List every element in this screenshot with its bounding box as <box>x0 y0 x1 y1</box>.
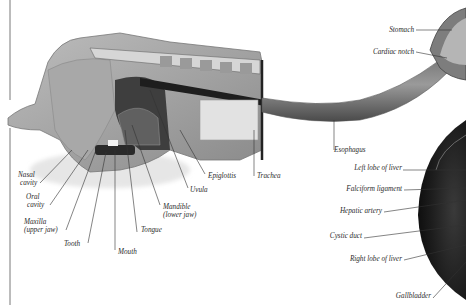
liver-shape <box>418 120 466 300</box>
label-nasal-cavity: Nasal cavity <box>18 171 37 187</box>
label-esophagus: Esophagus <box>334 146 366 154</box>
label-epiglottis: Epiglottis <box>208 172 236 180</box>
label-tooth: Tooth <box>64 240 80 248</box>
label-line-1: Maxilla <box>24 218 58 226</box>
label-line-2: cavity <box>26 201 44 209</box>
label-cardiac-notch: Cardiac notch <box>373 48 414 56</box>
label-falciform-ligament: Falciform ligament <box>346 185 402 193</box>
label-left-lobe-of-liver: Left lobe of liver <box>354 164 402 172</box>
label-tongue: Tongue <box>141 226 162 234</box>
label-stomach: Stomach <box>389 26 414 34</box>
anatomy-diagram: Nasal cavity Oral cavity Maxilla (upper … <box>0 0 466 305</box>
label-oral-cavity: Oral cavity <box>26 193 44 209</box>
label-uvula: Uvula <box>190 186 208 194</box>
label-line-1: Oral <box>26 193 44 201</box>
label-cystic-duct: Cystic duct <box>330 232 362 240</box>
label-line-1: Mandible <box>163 203 196 211</box>
label-mouth: Mouth <box>118 248 137 256</box>
label-line-2: cavity <box>18 179 37 187</box>
label-maxilla: Maxilla (upper jaw) <box>24 218 58 234</box>
esophagus-tube <box>262 60 448 121</box>
label-line-2: (upper jaw) <box>24 226 58 234</box>
label-mandible: Mandible (lower jaw) <box>163 203 196 219</box>
label-hepatic-artery: Hepatic artery <box>340 207 382 215</box>
label-gallbladder: Gallbladder <box>396 292 431 300</box>
label-trachea: Trachea <box>257 172 281 180</box>
label-right-lobe-of-liver: Right lobe of liver <box>350 255 402 263</box>
label-line-1: Nasal <box>18 171 37 179</box>
label-line-2: (lower jaw) <box>163 211 196 219</box>
